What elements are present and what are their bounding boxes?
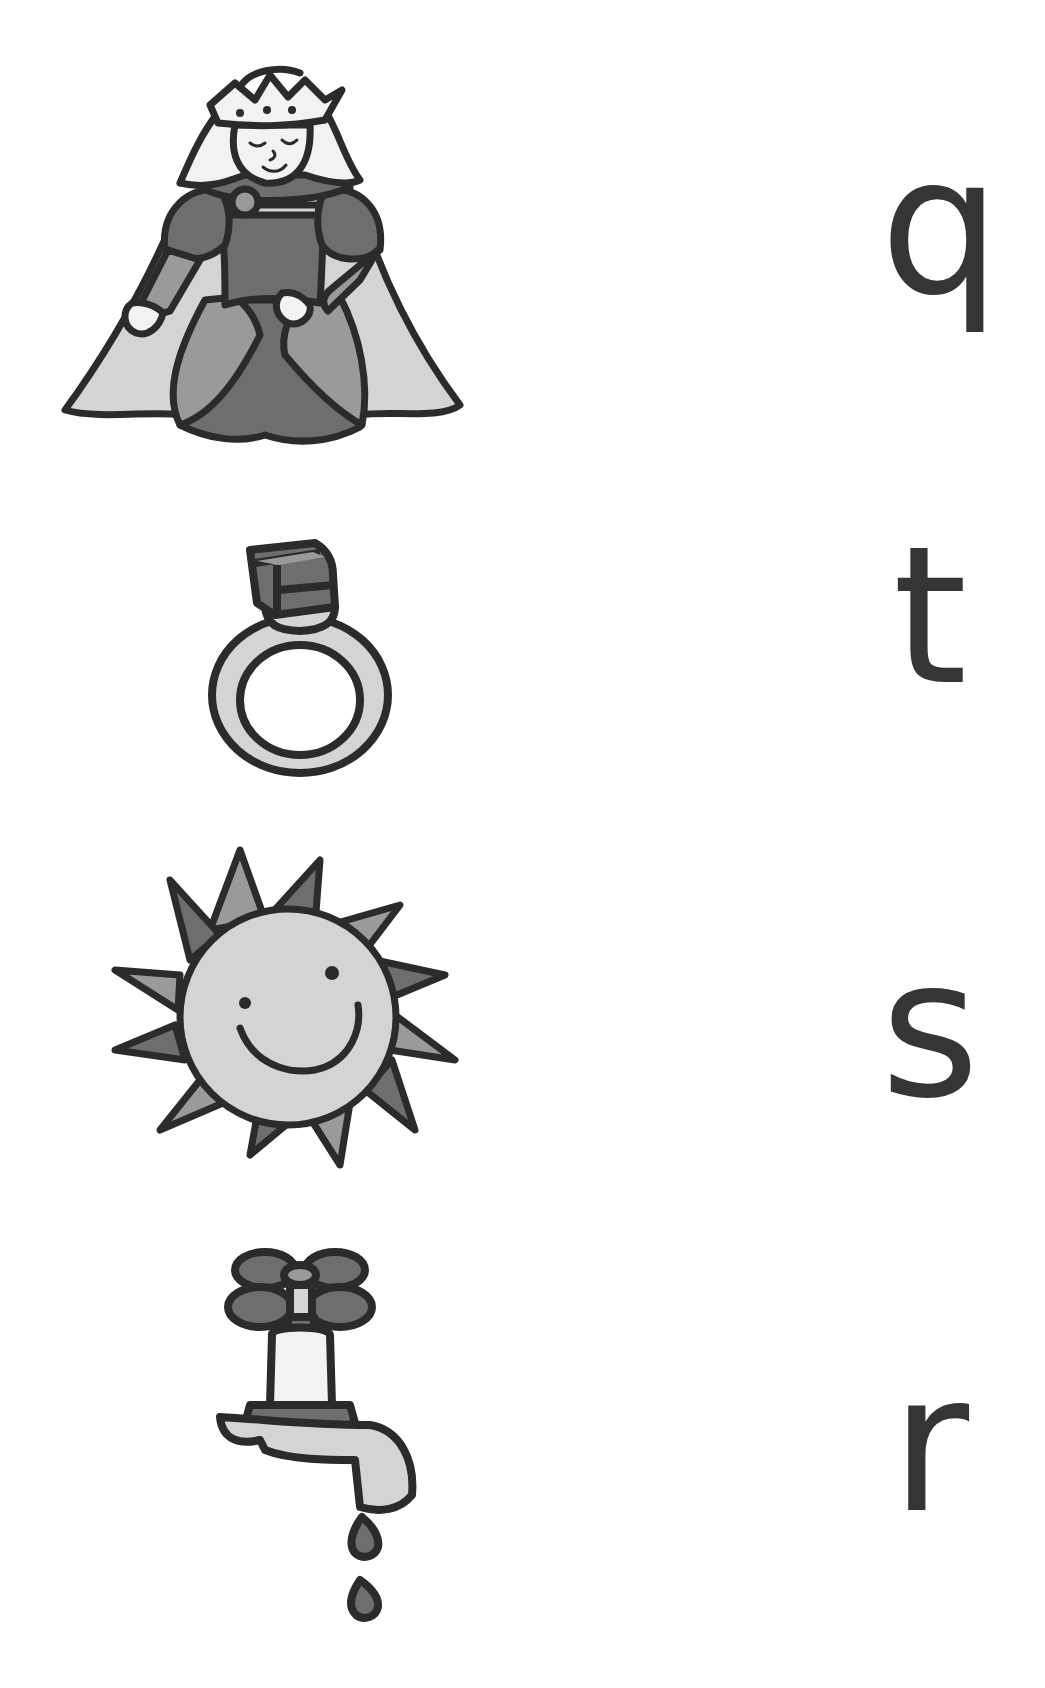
letter-r[interactable]: r [875, 1350, 985, 1540]
ring-icon[interactable] [195, 535, 405, 780]
tap-icon[interactable] [210, 1245, 430, 1630]
sun-icon[interactable] [100, 845, 470, 1175]
matching-worksheet: q t s r [0, 0, 1045, 1688]
queen-icon[interactable] [60, 65, 500, 485]
letter-t[interactable]: t [875, 522, 985, 712]
letter-q[interactable]: q [880, 132, 990, 322]
letter-s[interactable]: s [875, 935, 985, 1125]
